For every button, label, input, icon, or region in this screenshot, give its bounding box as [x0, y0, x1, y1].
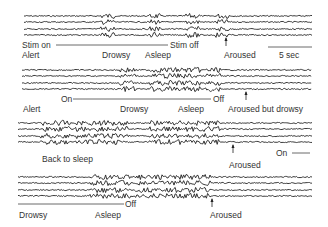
eeg-trace — [18, 193, 312, 198]
state-asleep-label: Asleep — [95, 210, 121, 220]
eeg-trace — [22, 80, 311, 85]
eeg-trace — [24, 19, 312, 24]
stim-on-label: On — [276, 148, 287, 158]
eeg-trace — [22, 73, 311, 78]
arousal-arrow-head-icon — [211, 198, 214, 202]
stim-on-label: On — [61, 94, 72, 104]
eeg-trace — [18, 120, 312, 125]
state-back-to-sleep-label: Back to sleep — [42, 154, 93, 164]
eeg-trace — [22, 67, 311, 72]
arousal-arrow-head-icon — [225, 37, 228, 41]
eeg-trace — [18, 187, 312, 192]
eeg-trace — [24, 13, 312, 18]
stim-on-label: Stim on — [22, 40, 51, 50]
eeg-trace — [18, 175, 312, 180]
eeg-trace — [18, 180, 312, 185]
state-drowsy-label: Drowsy — [19, 210, 47, 220]
arousal-arrow-head-icon — [245, 91, 248, 95]
eeg-trace — [24, 32, 312, 37]
state-asleep-label: Asleep — [145, 50, 171, 60]
eeg-trace — [18, 133, 312, 138]
eeg-figure: Stim on Stim off Alert Drowsy Asleep Aro… — [0, 0, 328, 227]
stim-off-label: Stim off — [170, 40, 199, 50]
state-aroused-label: Aroused — [210, 210, 242, 220]
arousal-arrow-head-icon — [232, 144, 235, 148]
state-alert-label: Alert — [22, 50, 39, 60]
state-drowsy-label: Drowsy — [120, 104, 148, 114]
eeg-trace — [22, 86, 311, 91]
state-aroused-label: Aroused — [229, 160, 261, 170]
state-alert-label: Alert — [23, 104, 40, 114]
eeg-trace — [18, 126, 312, 131]
stim-off-label: Off — [125, 199, 136, 209]
eeg-trace — [24, 26, 312, 31]
state-drowsy-label: Drowsy — [102, 50, 130, 60]
scale-bar-label: 5 sec — [279, 50, 299, 60]
state-aroused-but-drowsy-label: Aroused but drowsy — [228, 104, 303, 114]
state-asleep-label: Asleep — [178, 104, 204, 114]
state-aroused-label: Aroused — [224, 50, 256, 60]
eeg-trace — [18, 139, 312, 144]
stim-off-label: Off — [213, 94, 224, 104]
